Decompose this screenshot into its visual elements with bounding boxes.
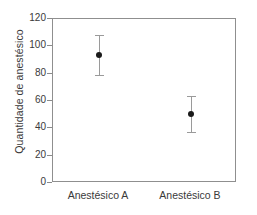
error-bar-cap-upper xyxy=(187,96,196,97)
data-point-marker xyxy=(96,52,102,58)
x-axis-tick-labels: Anestésico AAnestésico B xyxy=(52,188,236,204)
error-bar-cap-lower xyxy=(187,132,196,133)
y-tick-mark xyxy=(47,182,52,183)
error-bar-cap-upper xyxy=(95,35,104,36)
x-tick-label: Anestésico B xyxy=(135,188,245,202)
data-point-marker xyxy=(188,111,194,117)
error-bar-cap-lower xyxy=(95,75,104,76)
chart-container: Quantidade de anestésico 020406080100120… xyxy=(0,0,257,215)
plot-area xyxy=(52,18,236,182)
